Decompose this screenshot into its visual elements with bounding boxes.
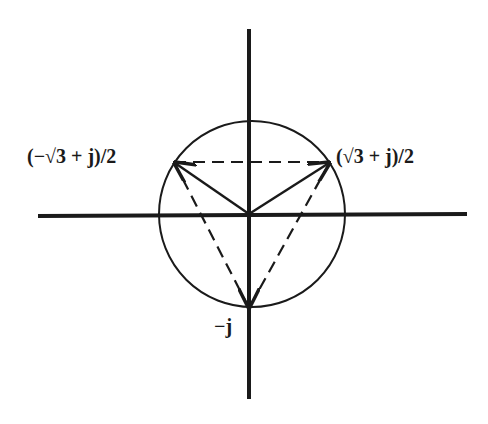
phasor-diagram [0, 0, 488, 424]
phasor-right-arrow [249, 163, 329, 214]
dashed-edge-right [249, 162, 330, 308]
label-left-phasor: (−√3 + j)/2 [27, 146, 116, 166]
label-right-phasor: (√3 + j)/2 [336, 146, 414, 166]
real-axis [38, 214, 467, 216]
label-bottom-phasor: −j [214, 316, 232, 336]
dashed-edge-left [174, 162, 249, 308]
phasor-left-arrow [175, 163, 249, 214]
